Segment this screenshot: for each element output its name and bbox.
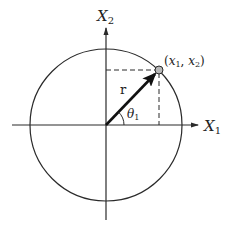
x1-axis-label: X1	[203, 117, 221, 136]
x2-axis-label: X2	[96, 7, 114, 26]
angle-label: θ1	[127, 107, 139, 122]
point-marker	[155, 66, 163, 74]
angle-arc	[119, 112, 125, 125]
polar-coordinate-diagram: X2 X1 (x1, x2) r θ1	[0, 0, 230, 229]
radius-label: r	[120, 82, 127, 97]
point-coordinate-label: (x1, x2)	[164, 54, 205, 69]
